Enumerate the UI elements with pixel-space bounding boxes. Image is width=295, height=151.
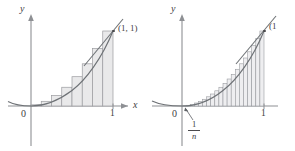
point-label-left: (1, 1) xyxy=(118,24,138,33)
figure-riemann-sums: y x 0 1 (1, 1) xyxy=(0,0,295,151)
y-axis-label-left: y xyxy=(20,4,24,14)
fraction-numerator: 1 xyxy=(188,120,200,129)
chart-panel-left: y x 0 1 (1, 1) xyxy=(0,0,147,151)
point-marker-left xyxy=(112,30,115,33)
point-marker-right xyxy=(263,30,266,33)
riemann-rectangles-left xyxy=(31,31,113,106)
x-axis-arrowhead-left xyxy=(121,103,128,109)
x-tick-label-right: 1 xyxy=(261,109,266,119)
origin-label-right: 0 xyxy=(172,109,177,119)
y-axis-arrowhead-right xyxy=(179,14,185,21)
point-label-right: (1 xyxy=(269,22,277,31)
rectangle-width-label-right: 1 n xyxy=(188,120,200,140)
fraction-denominator: n xyxy=(188,132,200,141)
y-axis-arrowhead-left xyxy=(28,14,34,21)
origin-label-left: 0 xyxy=(21,109,26,119)
chart-panel-right: y 0 1 1 n (1 xyxy=(148,0,295,151)
x-tick-label-left: 1 xyxy=(110,109,115,119)
width-annotation-arrowhead-right xyxy=(184,107,188,111)
y-axis-label-right: y xyxy=(171,4,175,14)
x-axis-label-left: x xyxy=(133,100,137,110)
riemann-rectangles-right xyxy=(182,31,264,106)
